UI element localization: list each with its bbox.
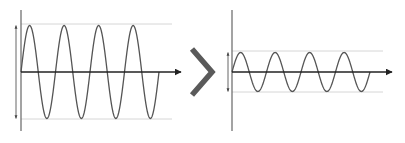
high-amplitude-wave-panel: [16, 10, 181, 131]
low-amplitude-wave-panel: [228, 10, 392, 131]
diagram-canvas: [0, 0, 405, 143]
chevron-right-icon: [192, 49, 212, 95]
